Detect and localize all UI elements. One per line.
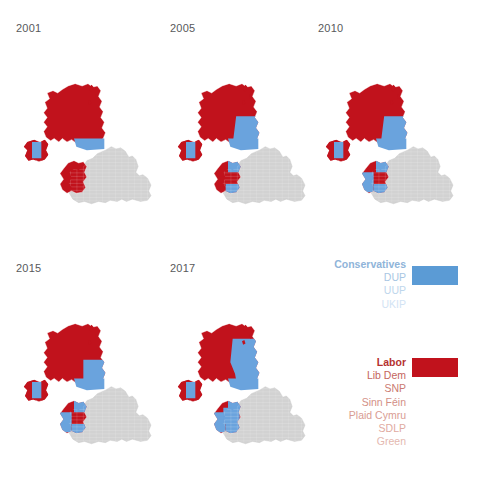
region-scottish-borders bbox=[74, 378, 104, 390]
legend-blue-group: ConservativesDUPUUPUKIP bbox=[318, 258, 468, 316]
year-label-2001: 2001 bbox=[16, 22, 41, 34]
legend-item-sinn-f-in: Sinn Féin bbox=[362, 396, 406, 409]
region-northern-ireland-sub bbox=[41, 140, 50, 163]
region-scottish-borders bbox=[376, 138, 406, 150]
region-scottish-borders bbox=[228, 378, 258, 390]
legend-item-dup: DUP bbox=[384, 271, 406, 284]
region-northern-ireland-sub bbox=[41, 380, 50, 403]
legend-item-snp: SNP bbox=[384, 382, 406, 395]
region-scotland bbox=[44, 84, 106, 144]
uk-map-2017 bbox=[172, 278, 312, 490]
legend-item-conservatives: Conservatives bbox=[334, 258, 406, 271]
year-label-2017: 2017 bbox=[170, 262, 195, 274]
region-scottish-borders bbox=[228, 138, 258, 150]
legend: ConservativesDUPUUPUKIP LaborLib DemSNPS… bbox=[318, 258, 468, 452]
map-body-2017 bbox=[172, 278, 312, 490]
year-label-2005: 2005 bbox=[170, 22, 195, 34]
region-northern-ireland-sub bbox=[195, 140, 204, 163]
legend-item-ukip: UKIP bbox=[381, 298, 406, 311]
region-scotland-sub bbox=[83, 360, 105, 380]
legend-item-lib-dem: Lib Dem bbox=[367, 369, 406, 382]
year-label-2015: 2015 bbox=[16, 262, 41, 274]
year-label-2010: 2010 bbox=[318, 22, 343, 34]
region-wales-sub bbox=[361, 172, 374, 192]
region-northern-ireland-sub bbox=[343, 140, 352, 163]
region-scottish-borders bbox=[74, 138, 104, 150]
legend-swatch-labor bbox=[412, 358, 458, 377]
legend-item-plaid-cymru: Plaid Cymru bbox=[349, 409, 406, 422]
map-body-2005 bbox=[172, 38, 312, 250]
map-body-2010 bbox=[320, 38, 460, 250]
map-body-2001 bbox=[18, 38, 158, 250]
region-wales bbox=[60, 161, 87, 194]
uk-map-2010 bbox=[320, 38, 460, 250]
uk-map-2001 bbox=[18, 38, 158, 250]
legend-item-uup: UUP bbox=[384, 284, 406, 297]
map-body-2015 bbox=[18, 278, 158, 490]
region-northern-ireland-sub bbox=[195, 380, 204, 403]
legend-item-labor: Labor bbox=[377, 356, 406, 369]
legend-item-sdlp: SDLP bbox=[379, 422, 406, 435]
uk-map-2005 bbox=[172, 38, 312, 250]
legend-red-group: LaborLib DemSNPSinn FéinPlaid CymruSDLPG… bbox=[318, 356, 468, 452]
legend-swatch-conservatives bbox=[412, 266, 458, 285]
region-wales-sub bbox=[59, 412, 72, 432]
uk-map-2015 bbox=[18, 278, 158, 490]
legend-item-green: Green bbox=[377, 435, 406, 448]
